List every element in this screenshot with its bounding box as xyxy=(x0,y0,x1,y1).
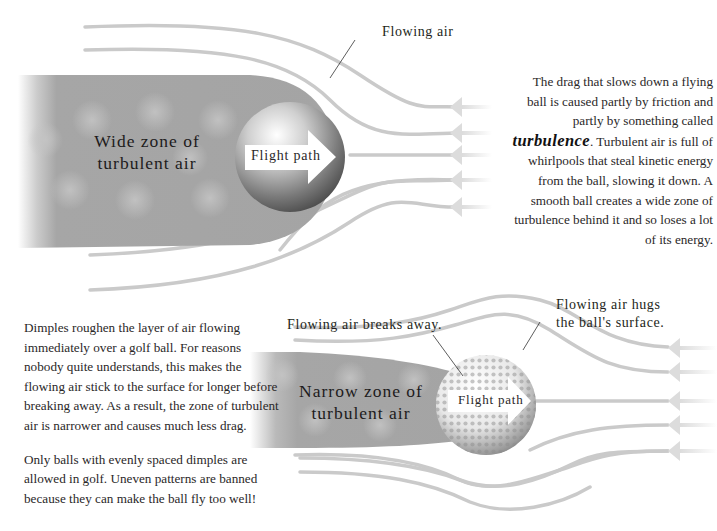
wide-zone-label-line2: turbulent air xyxy=(92,152,202,174)
top-flowing-air-callout: Flowing air xyxy=(382,23,454,41)
turbulence-term: turbulence xyxy=(513,131,590,150)
hugs-surface-callout-line1: Flowing air hugs xyxy=(556,296,664,314)
bottom-right-callout-leader xyxy=(523,322,540,350)
top-flight-path-label: Flight path xyxy=(251,148,321,164)
wide-zone-label: Wide zone of turbulent air xyxy=(92,130,202,174)
bottom-explanation: Dimples roughen the layer of air flowing… xyxy=(24,318,284,522)
top-flow-arrowheads xyxy=(450,97,492,217)
top-explanation-paragraph: The drag that slows down a flying ball i… xyxy=(512,72,713,249)
bottom-flow-arrowheads xyxy=(668,338,717,461)
dimple-rules-paragraph: Only balls with evenly spaced dimples ar… xyxy=(24,450,284,509)
wide-zone-label-line1: Wide zone of xyxy=(92,130,202,152)
hugs-surface-callout-line2: the ball's surface. xyxy=(556,314,664,332)
narrow-zone-label-line2: turbulent air xyxy=(296,402,426,424)
top-paragraph-rest: . Turbulent air is full of whirlpools th… xyxy=(514,134,713,247)
breaks-away-callout: Flowing air breaks away. xyxy=(287,316,442,334)
narrow-zone-label-line1: Narrow zone of xyxy=(296,380,426,402)
bottom-flight-path-label: Flight path xyxy=(458,392,524,408)
dimples-paragraph: Dimples roughen the layer of air flowing… xyxy=(24,318,284,436)
hugs-surface-callout: Flowing air hugs the ball's surface. xyxy=(556,296,664,332)
top-paragraph-intro: The drag that slows down a flying ball i… xyxy=(527,74,713,128)
narrow-zone-label: Narrow zone of turbulent air xyxy=(296,380,426,424)
